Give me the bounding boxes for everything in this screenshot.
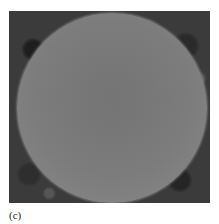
spherical-particle — [17, 13, 207, 203]
figure: (c) — [0, 0, 219, 224]
micrograph-image — [9, 11, 210, 203]
figure-caption: (c) — [9, 209, 21, 221]
